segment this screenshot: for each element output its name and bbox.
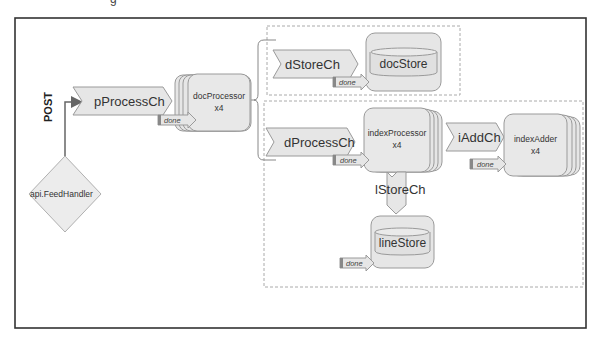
indexadder-name: indexAdder xyxy=(504,133,567,145)
docprocessor-count: x4 xyxy=(188,102,250,114)
dstorech-label: dStoreCh xyxy=(285,57,340,72)
diagram-canvas: g POST api.FeedHandler pProcessCh docPro… xyxy=(0,0,601,341)
linestore-label: lineStore xyxy=(375,236,430,250)
indexprocessor-count: x4 xyxy=(364,139,430,151)
feed-handler-label: api.FeedHandler xyxy=(30,189,93,199)
indexadder-done-label: done xyxy=(477,160,494,169)
iaddch-label: iAddCh xyxy=(458,130,501,145)
docprocessor-name: docProcessor xyxy=(188,90,250,102)
docstore-label: docStore xyxy=(370,57,437,71)
indexprocessor-name: indexProcessor xyxy=(364,127,430,139)
pprocessch-label: pProcessCh xyxy=(94,94,165,109)
docprocessor-done-label: done xyxy=(164,116,181,125)
docprocessor-label: docProcessor x4 xyxy=(188,90,250,114)
lstorech-label: lStoreCh xyxy=(375,182,426,197)
linestore-done-label: done xyxy=(346,259,363,268)
indexadder-count: x4 xyxy=(504,145,567,157)
dprocessch-label: dProcessCh xyxy=(284,135,355,150)
indexadder-label: indexAdder x4 xyxy=(504,133,567,157)
post-label: POST xyxy=(42,92,54,122)
cut-off-header-text: g xyxy=(110,0,117,6)
indexprocessor-done-label: done xyxy=(340,156,357,165)
docstore-done-label: done xyxy=(339,78,356,87)
indexprocessor-label: indexProcessor x4 xyxy=(364,127,430,151)
fan-out-bracket xyxy=(248,40,276,160)
